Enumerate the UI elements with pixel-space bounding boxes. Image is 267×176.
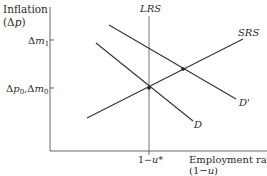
phillips-curve-diagram: Inflation (Δp) Δm1 Δp0,Δm0 LRS SRS D' D … bbox=[0, 0, 267, 176]
equilibrium-point-0 bbox=[147, 86, 151, 90]
y-axis-label-line2: (Δp) bbox=[3, 16, 26, 28]
d-prime-label: D' bbox=[238, 97, 250, 108]
lrs-label: LRS bbox=[139, 3, 161, 14]
y-tick-label-dm1: Δm1 bbox=[28, 35, 49, 48]
d-line bbox=[96, 43, 193, 121]
x-axis-label-line1: Employment rate bbox=[189, 154, 267, 165]
d-label: D bbox=[193, 119, 202, 130]
x-tick-label-natural-rate: 1−u* bbox=[138, 154, 163, 165]
srs-label: SRS bbox=[238, 27, 259, 38]
y-axis-label-line1: Inflation bbox=[3, 3, 48, 15]
srs-line bbox=[87, 39, 243, 118]
equilibrium-point-1 bbox=[181, 67, 185, 71]
y-tick-label-dp0-dm0: Δp0,Δm0 bbox=[6, 83, 48, 96]
x-axis-label-line2: (1−u) bbox=[189, 165, 218, 176]
d-prime-line bbox=[109, 25, 236, 99]
